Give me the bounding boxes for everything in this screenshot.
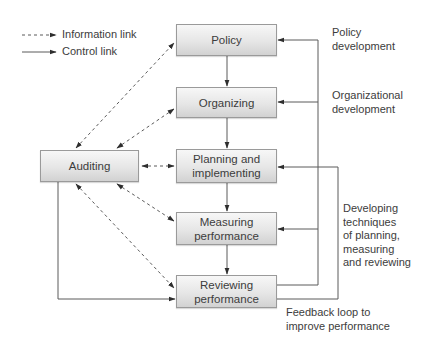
node-reviewing-performance: Reviewing performance — [176, 275, 277, 308]
annotation-feedback-loop: Feedback loop to improve performance — [286, 306, 390, 333]
node-planning-implementing: Planning and implementing — [176, 149, 277, 183]
annotation-organizational-development: Organizational development — [332, 89, 403, 116]
node-policy: Policy — [176, 24, 277, 56]
annotation-policy-development: Policy development — [332, 26, 395, 53]
annotation-developing-techniques: Developing techniques of planning, measu… — [343, 202, 411, 270]
node-measuring-performance: Measuring performance — [176, 212, 277, 245]
legend-information-link-label: Information link — [62, 28, 137, 42]
legend-control-link-label: Control link — [62, 45, 117, 59]
node-auditing: Auditing — [40, 150, 139, 182]
node-organizing: Organizing — [176, 87, 277, 118]
